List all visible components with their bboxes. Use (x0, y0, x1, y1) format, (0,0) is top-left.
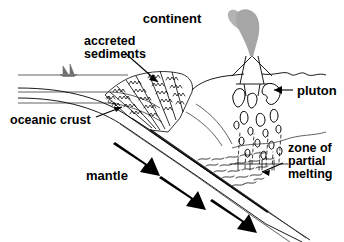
label-zone-line3: melting (288, 167, 332, 181)
label-oceanic-crust: oceanic crust (10, 113, 91, 127)
label-accreted-sediments-line2: sediments (84, 47, 146, 61)
label-pluton: pluton (297, 83, 337, 98)
label-mantle: mantle (86, 168, 128, 183)
label-zone-line2: partial (288, 154, 326, 168)
subduction-zone-diagram: continent accreted sediments pluton ocea… (0, 0, 344, 242)
magma-plutons (230, 83, 288, 170)
label-accreted-sediments-line1: accreted (84, 34, 135, 48)
sailboat-icon (60, 64, 77, 77)
ash-plume-icon (228, 9, 259, 57)
diagram-canvas: continent accreted sediments pluton ocea… (0, 0, 344, 242)
label-continent: continent (143, 11, 202, 26)
label-zone-line1: zone of (288, 141, 333, 155)
